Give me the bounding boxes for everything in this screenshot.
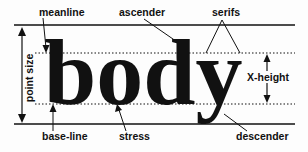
point-size-arrow-down-icon xyxy=(18,114,26,123)
diagram-canvas: body point size meanline ascender serifs… xyxy=(0,0,308,152)
label-base-line: base-line xyxy=(42,130,88,142)
label-stress: stress xyxy=(119,130,150,142)
typography-diagram: body point size meanline ascender serifs… xyxy=(0,0,308,152)
label-point-size: point size xyxy=(23,54,35,103)
label-x-height: X-height xyxy=(247,71,289,83)
point-size-arrow-up-icon xyxy=(18,27,26,36)
label-meanline: meanline xyxy=(39,6,85,18)
x-height-arrow-down-icon xyxy=(264,95,271,103)
label-ascender: ascender xyxy=(119,6,165,18)
x-height-arrow-up-icon xyxy=(264,54,271,62)
word-body: body xyxy=(44,20,243,124)
label-serifs: serifs xyxy=(212,6,240,18)
label-descender: descender xyxy=(236,130,289,142)
